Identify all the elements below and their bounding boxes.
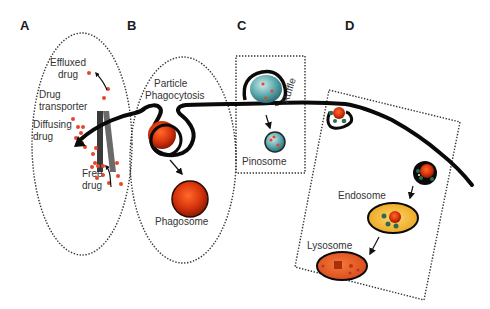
coated-pit [328, 107, 352, 128]
label-drug: Drug [39, 89, 61, 100]
label-lysosome: Lysosome [307, 240, 353, 251]
label-phagocytosis: Phagocytosis [145, 90, 204, 101]
pinocytosis-arrow [266, 115, 270, 128]
phagocytosis-arrow [170, 160, 182, 174]
panel-label-b: B [127, 18, 136, 33]
endocytosis-diagram: A B C D Efflu [0, 0, 490, 309]
label-transporter: transporter [39, 101, 88, 112]
label-pinosome: Pinosome [242, 156, 287, 167]
label-diffusing: Diffusing [33, 119, 72, 130]
label-free: Free [82, 168, 103, 179]
efflux-arrow [96, 73, 107, 90]
pinosome [265, 132, 285, 152]
label-phagosome: Phagosome [155, 216, 209, 227]
coated-vesicle [413, 161, 437, 185]
panel-label-a: A [20, 18, 30, 33]
maturation-arrow [370, 237, 379, 254]
label-particle: Particle [154, 78, 188, 89]
label-diffusing-drug: drug [33, 131, 53, 142]
phagosome [172, 181, 208, 217]
label-effluxed-drug: drug [58, 69, 78, 80]
panel-label-c: C [237, 18, 247, 33]
label-effluxed: Effluxed [50, 57, 86, 68]
endocytosis-arrow [410, 186, 413, 198]
label-free-drug: drug [82, 180, 102, 191]
panel-label-d: D [345, 18, 354, 33]
label-endosome: Endosome [338, 190, 386, 201]
